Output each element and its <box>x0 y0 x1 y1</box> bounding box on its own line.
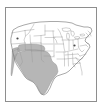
boundary-fl-peninsula <box>80 63 82 75</box>
lake-superior <box>62 28 71 32</box>
lake-michigan <box>67 33 70 40</box>
us-map-svg <box>0 0 104 110</box>
marker-great-lakes-dot <box>73 44 75 46</box>
map-figure <box>0 0 104 110</box>
marker-northwest-dot <box>16 37 18 39</box>
